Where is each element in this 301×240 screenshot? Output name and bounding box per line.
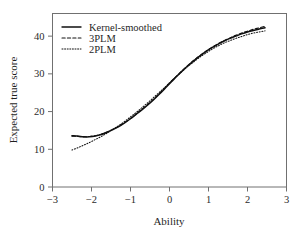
y-axis-title: Expected true score: [7, 57, 19, 144]
x-tick-label-4: 1: [206, 194, 211, 205]
figure-background: [0, 0, 301, 240]
y-tick-label-1: 10: [34, 144, 45, 155]
x-tick-label-6: 3: [284, 194, 289, 205]
y-tick-label-2: 20: [34, 106, 45, 117]
x-tick-label-2: −1: [125, 194, 136, 205]
legend-label-kernel-smoothed: Kernel-smoothed: [89, 22, 163, 33]
expected-true-score-plot: −3−2−10123 010203040 Ability Expected tr…: [0, 0, 301, 240]
x-tick-label-3: 0: [167, 194, 172, 205]
legend-label-3plm: 3PLM: [89, 33, 117, 44]
y-tick-label-4: 40: [34, 31, 45, 42]
x-tick-label-1: −2: [86, 194, 97, 205]
y-tick-label-3: 30: [34, 68, 45, 79]
x-tick-label-5: 2: [245, 194, 250, 205]
chart-figure: −3−2−10123 010203040 Ability Expected tr…: [0, 0, 301, 240]
y-tick-label-0: 0: [39, 182, 44, 193]
x-tick-label-0: −3: [47, 194, 58, 205]
legend-label-2plm: 2PLM: [89, 44, 117, 55]
x-axis-title: Ability: [153, 215, 185, 227]
